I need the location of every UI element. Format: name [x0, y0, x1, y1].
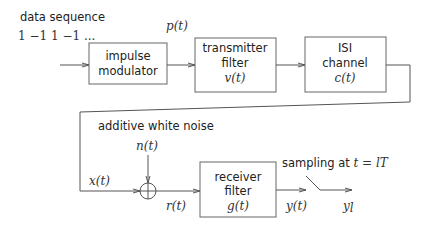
receiver-filter-line1: receiver	[215, 170, 262, 184]
noise-label: additive white noise	[98, 119, 214, 133]
transmitter-filter-line2: filter	[222, 56, 249, 70]
receiver-filter-block: receiver filter g(t)	[200, 162, 276, 217]
r-signal-label: r(t)	[166, 199, 186, 213]
sampler-switch-icon	[306, 176, 320, 190]
summer-plus-circle-icon	[140, 183, 156, 199]
n-signal-label: n(t)	[136, 139, 158, 153]
receiver-filter-line2: filter	[225, 184, 252, 198]
block-diagram: data sequence 1 −1 1 −1 ... impulse modu…	[0, 0, 428, 225]
transmitter-filter-line1: transmitter	[203, 41, 268, 55]
sampler-label-text: sampling at	[282, 156, 353, 170]
isi-channel-func: c(t)	[335, 71, 356, 85]
impulse-modulator-line1: impulse	[105, 49, 150, 63]
x-signal-label: x(t)	[89, 174, 110, 188]
isi-channel-block: ISI channel c(t)	[305, 37, 386, 92]
transmitter-filter-block: transmitter filter v(t)	[195, 38, 276, 92]
impulse-modulator-line2: modulator	[98, 64, 158, 78]
data-sequence-values: 1 −1 1 −1 ...	[18, 29, 95, 43]
y-signal-label: y(t)	[285, 199, 307, 213]
yl-subscript: l	[350, 201, 354, 215]
sampler-label: sampling at t = lT	[282, 156, 389, 170]
isi-channel-line1: ISI	[338, 41, 352, 55]
yl-signal-label: yl	[342, 199, 354, 215]
receiver-filter-func: g(t)	[227, 199, 249, 213]
sampler-label-math: t = lT	[353, 156, 388, 170]
data-sequence-label: data sequence	[20, 10, 105, 24]
isi-channel-line2: channel	[322, 56, 368, 70]
p-signal-label: p(t)	[166, 19, 188, 33]
transmitter-filter-func: v(t)	[225, 71, 246, 85]
impulse-modulator-block: impulse modulator	[89, 43, 167, 84]
